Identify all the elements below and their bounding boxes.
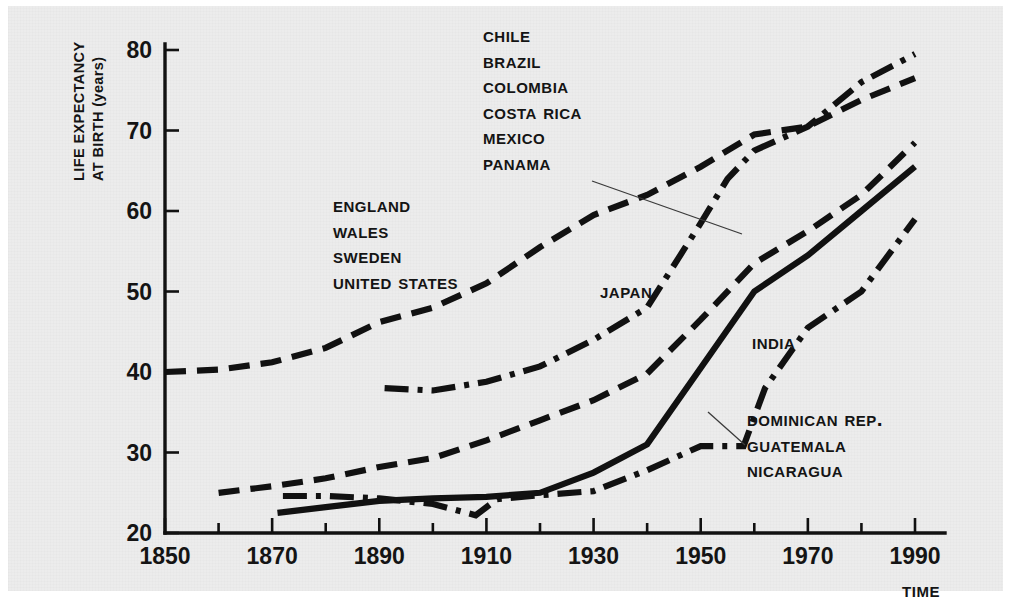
series-label-line: Panama — [483, 150, 582, 176]
x-tick-label: 1950 — [675, 543, 726, 569]
series-label-dominican-group: Dominican Rep. Guatemala Nicaragua — [747, 406, 883, 483]
figure-page: 20304050607080 1850187018901910193019501… — [0, 0, 1011, 609]
series-label-england-group: England Wales Sweden United States — [333, 192, 458, 294]
series-label-line: Chile — [483, 22, 582, 48]
series-label-line: Sweden — [333, 243, 458, 269]
series-label-line: Guatemala — [747, 432, 883, 458]
series-label-line: United States — [333, 269, 458, 295]
y-tick-label: 80 — [126, 37, 152, 63]
series-label-line: Japan — [600, 278, 652, 304]
y-tick-label: 60 — [126, 198, 152, 224]
y-tick-label: 40 — [126, 359, 152, 385]
leader-lines — [592, 181, 745, 445]
x-tick-label: 1850 — [139, 543, 190, 569]
series-line-2 — [385, 54, 915, 391]
x-axis-tick-labels: 18501870189019101930195019701990 — [139, 543, 940, 569]
series-label-line: India — [752, 329, 795, 355]
series-label-japan: Japan — [600, 278, 652, 304]
x-axis-ticks — [165, 518, 915, 533]
series-label-line: Costa Rica — [483, 99, 582, 125]
leader-line-dominican-group — [708, 412, 745, 445]
x-tick-label: 1970 — [782, 543, 833, 569]
x-tick-label: 1990 — [889, 543, 940, 569]
y-tick-label: 70 — [126, 118, 152, 144]
x-tick-label: 1930 — [568, 543, 619, 569]
y-tick-label: 50 — [126, 279, 152, 305]
series-label-chile-group: Chile Brazil Colombia Costa Rica Mexico … — [483, 22, 582, 175]
x-tick-label: 1870 — [247, 543, 298, 569]
series-label-line: Mexico — [483, 124, 582, 150]
y-tick-label: 30 — [126, 440, 152, 466]
x-axis-title: TIME — [902, 583, 940, 600]
y-axis-title-line1: LIFE EXPECTANCY — [71, 42, 87, 181]
series-label-line: Colombia — [483, 73, 582, 99]
y-axis-ticks — [165, 50, 179, 533]
y-axis-tick-labels: 20304050607080 — [126, 37, 152, 546]
y-axis-title-line2: AT BIRTH (years) — [90, 56, 106, 181]
series-label-line: Nicaragua — [747, 457, 883, 483]
series-label-line: England — [333, 192, 458, 218]
series-label-line: Brazil — [483, 48, 582, 74]
x-tick-label: 1910 — [461, 543, 512, 569]
series-label-line: Dominican Rep. — [747, 406, 883, 432]
series-label-line: Wales — [333, 218, 458, 244]
series-label-india: India — [752, 329, 795, 355]
x-tick-label: 1890 — [354, 543, 405, 569]
